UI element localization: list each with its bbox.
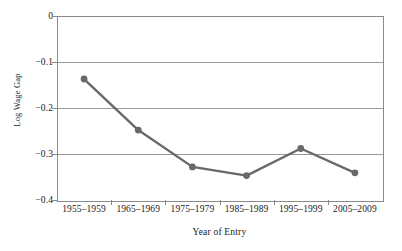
data-point: [81, 76, 88, 83]
data-point: [352, 169, 359, 176]
data-point: [189, 163, 196, 170]
x-tick-mark: [328, 200, 329, 205]
series-line: [84, 79, 355, 176]
data-point: [243, 172, 250, 179]
data-point: [297, 145, 304, 152]
x-tick-mark: [274, 200, 275, 205]
x-axis: 1955–19591965–19691975–19791985–19891995…: [57, 203, 382, 219]
x-tick-mark: [220, 200, 221, 205]
data-point: [135, 127, 142, 134]
x-tick-mark: [165, 200, 166, 205]
x-axis-title: Year of Entry: [57, 226, 382, 238]
chart-figure: Log Wage Gap 0−0.1−0.2−0.3−0.4 1955–1959…: [0, 0, 402, 251]
x-tick-mark: [111, 200, 112, 205]
